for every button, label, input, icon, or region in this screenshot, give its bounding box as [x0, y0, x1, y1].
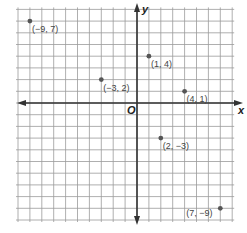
y-axis-label: y: [141, 3, 149, 15]
coordinate-plane: x y O (−9, 7)(−3, 2)(1, 4)(4, 1)(2, −3)(…: [0, 0, 247, 233]
point-marker: [28, 19, 33, 24]
point-marker: [218, 206, 223, 211]
y-axis-down-arrow-icon: [134, 216, 140, 225]
point-label: (2, −3): [163, 141, 189, 151]
origin-label: O: [127, 104, 136, 116]
point-label: (4, 1): [187, 94, 208, 104]
point-marker: [99, 77, 104, 82]
point-marker: [158, 136, 163, 141]
y-axis-up-arrow-icon: [134, 3, 140, 12]
point-marker: [182, 89, 187, 94]
point-label: (−9, 7): [32, 24, 58, 34]
point-label: (−3, 2): [103, 83, 129, 93]
grid-lines: [16, 7, 234, 222]
point-label: (7, −9): [186, 208, 212, 218]
x-axis-label: x: [237, 104, 245, 116]
point-label: (1, 4): [151, 59, 172, 69]
point-marker: [147, 54, 152, 59]
